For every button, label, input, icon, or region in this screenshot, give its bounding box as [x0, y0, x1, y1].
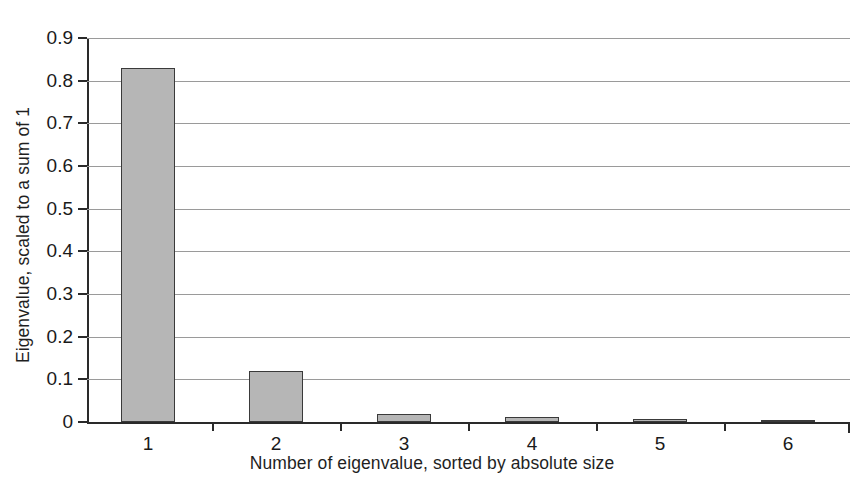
gridline — [87, 294, 850, 295]
bar — [633, 419, 687, 422]
y-tick-label: 0.9 — [3, 28, 73, 47]
y-tick-label: 0.7 — [3, 113, 73, 132]
y-tick-label: 0.1 — [3, 369, 73, 388]
gridline — [87, 38, 850, 39]
y-tick-mark — [78, 293, 87, 295]
gridline — [87, 123, 850, 124]
x-tick-mark — [212, 422, 214, 431]
x-tick-label: 5 — [630, 434, 690, 453]
plot-area: 00.10.20.30.40.50.60.70.80.9123456 — [87, 38, 850, 422]
gridline — [87, 251, 850, 252]
cropped-caption-band — [0, 0, 864, 14]
x-axis-end-cap — [848, 422, 850, 433]
y-tick-label: 0.4 — [3, 241, 73, 260]
x-tick-mark — [596, 422, 598, 431]
x-tick-label: 6 — [758, 434, 818, 453]
x-tick-mark — [340, 422, 342, 431]
gridline — [87, 337, 850, 338]
y-tick-mark — [78, 250, 87, 252]
y-tick-mark — [78, 80, 87, 82]
bar — [249, 371, 303, 422]
x-tick-label: 3 — [374, 434, 434, 453]
y-tick-mark — [78, 421, 87, 423]
bar — [121, 68, 175, 422]
x-tick-mark — [468, 422, 470, 431]
eigenvalue-scree-chart: Eigenvalue, scaled to a sum of 1 00.10.2… — [0, 0, 864, 487]
x-tick-mark — [724, 422, 726, 431]
gridline — [87, 209, 850, 210]
gridline — [87, 81, 850, 82]
y-tick-label: 0 — [3, 412, 73, 431]
bar — [761, 420, 815, 423]
y-tick-mark — [78, 336, 87, 338]
y-tick-mark — [78, 208, 87, 210]
x-axis-title: Number of eigenvalue, sorted by absolute… — [0, 455, 864, 473]
y-tick-mark — [78, 165, 87, 167]
gridline — [87, 166, 850, 167]
x-tick-label: 2 — [246, 434, 306, 453]
y-tick-mark — [78, 37, 87, 39]
y-tick-label: 0.2 — [3, 327, 73, 346]
y-tick-label: 0.5 — [3, 199, 73, 218]
x-tick-label: 1 — [118, 434, 178, 453]
y-tick-label: 0.8 — [3, 71, 73, 90]
y-tick-mark — [78, 378, 87, 380]
y-tick-label: 0.3 — [3, 284, 73, 303]
bar — [505, 417, 559, 422]
gridline — [87, 379, 850, 380]
bar — [377, 414, 431, 422]
y-tick-label: 0.6 — [3, 156, 73, 175]
y-tick-mark — [78, 122, 87, 124]
x-tick-label: 4 — [502, 434, 562, 453]
